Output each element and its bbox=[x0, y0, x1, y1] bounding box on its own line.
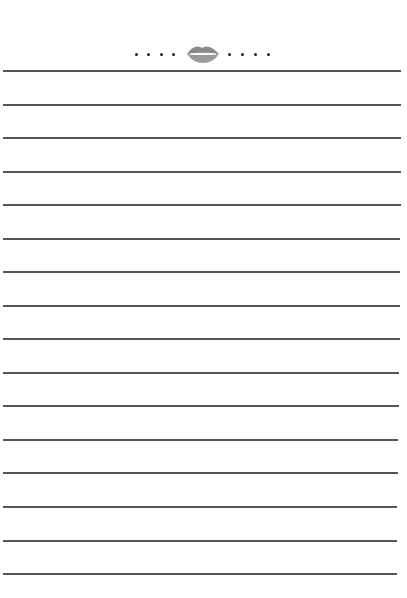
dot-icon bbox=[267, 53, 270, 56]
ruled-line bbox=[3, 70, 401, 72]
ruled-line bbox=[3, 372, 399, 374]
ruled-line bbox=[3, 338, 400, 340]
ruled-line bbox=[3, 439, 398, 441]
ruled-line bbox=[3, 271, 400, 273]
page-header-ornament bbox=[0, 42, 407, 66]
ruled-line bbox=[3, 204, 401, 206]
dot-icon bbox=[254, 53, 257, 56]
ruled-line bbox=[3, 238, 400, 240]
ruled-line bbox=[3, 305, 400, 307]
ruled-line bbox=[3, 573, 397, 575]
dot-icon bbox=[172, 53, 175, 56]
dot-icon bbox=[135, 53, 138, 56]
ruled-line bbox=[3, 540, 397, 542]
lips-kiss-icon bbox=[186, 44, 220, 64]
ruled-line bbox=[3, 405, 399, 407]
dot-icon bbox=[160, 53, 163, 56]
dot-icon bbox=[147, 53, 150, 56]
ruled-line bbox=[3, 104, 401, 106]
dot-icon bbox=[241, 53, 244, 56]
ruled-line bbox=[3, 137, 401, 139]
ruled-line bbox=[3, 472, 398, 474]
ruled-line bbox=[3, 506, 397, 508]
ruled-line bbox=[3, 171, 401, 173]
dot-icon bbox=[228, 53, 231, 56]
